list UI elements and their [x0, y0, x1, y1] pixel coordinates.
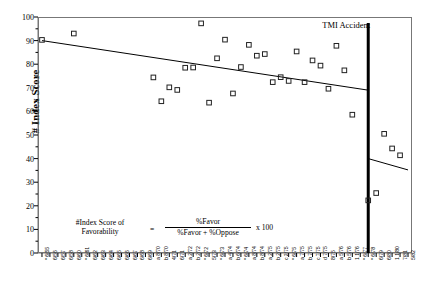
- formula-equals: =: [150, 225, 154, 234]
- y-tick-marks: [34, 17, 38, 253]
- chart-canvas: [0, 0, 432, 295]
- formula-left-line1: #Index Score of: [60, 218, 140, 227]
- chart-root: # Index Score 0102030405060708090100 * 6…: [0, 0, 432, 295]
- formula-denominator: %Favor + %Oppose: [162, 228, 254, 237]
- tmi-accident-label: TMI Accident: [322, 20, 370, 30]
- formula-left-line2: Favorability: [60, 227, 140, 236]
- formula-multiplier: x 100: [256, 223, 273, 232]
- trend-lines: [42, 41, 408, 170]
- formula-numerator: %Favor: [165, 217, 251, 226]
- x-tick-marks: [42, 253, 408, 257]
- formula-left-label: #Index Score of Favorability: [60, 218, 140, 237]
